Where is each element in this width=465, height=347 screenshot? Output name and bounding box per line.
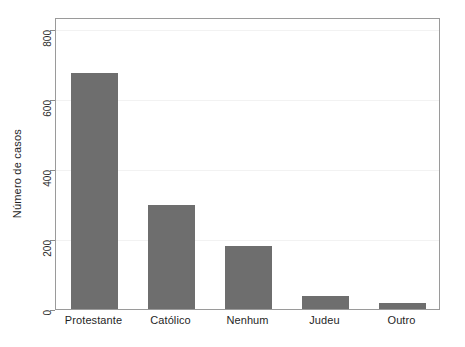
bar-outro[interactable] <box>379 303 426 309</box>
bar-católico[interactable] <box>148 205 195 309</box>
bar-chart-figure: Número de casos 800 600 400 200 0 Protes… <box>0 0 465 347</box>
bar-protestante[interactable] <box>71 73 118 309</box>
y-tick-label-600: 600 <box>42 100 53 117</box>
y-tick-label-400: 400 <box>42 170 53 187</box>
x-axis-label-outro: Outro <box>387 314 415 326</box>
y-tick-label-200: 200 <box>42 240 53 257</box>
bar-judeu[interactable] <box>302 296 349 309</box>
x-axis-label-judeu: Judeu <box>309 314 339 326</box>
x-axis-label-protestante: Protestante <box>65 314 122 326</box>
y-tick-label-0: 0 <box>42 310 53 316</box>
x-axis-label-católico: Católico <box>150 314 191 326</box>
plot-area <box>55 18 440 310</box>
gridline-800 <box>56 30 439 31</box>
x-axis: ProtestanteCatólicoNenhumJudeuOutro <box>55 314 440 334</box>
y-tick-label-800: 800 <box>42 30 53 47</box>
bar-nenhum[interactable] <box>225 246 272 309</box>
x-axis-label-nenhum: Nenhum <box>226 314 268 326</box>
y-axis: 800 600 400 200 0 <box>0 0 55 347</box>
